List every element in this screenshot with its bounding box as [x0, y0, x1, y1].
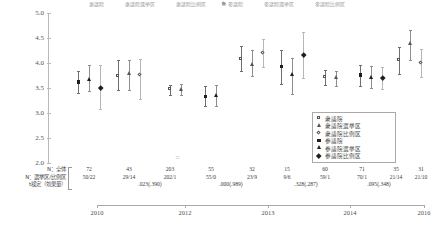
- footer-test-value: .095(.348): [367, 181, 390, 187]
- error-bar-cap: [420, 49, 423, 50]
- footer-total-value: 55: [208, 166, 214, 172]
- error-bar-cap: [302, 78, 305, 79]
- footer-split-value: 29/14: [123, 174, 136, 180]
- error-bar-cap: [88, 91, 91, 92]
- error-bar-cap: [128, 90, 131, 91]
- footer-split-value: 23/9: [247, 174, 257, 180]
- footer-total-value: 203: [166, 166, 174, 172]
- top-legend-label: 参議院選挙区: [264, 0, 294, 7]
- error-bar-cap: [128, 60, 131, 61]
- chart-root: ▫衆議院 △衆議院選挙区 ◇衆議院比例区 ▪参議院 ▴参議院選挙区 ◆参議院比例…: [0, 0, 434, 228]
- footer-split-value: 202/1: [164, 174, 177, 180]
- x-axis-line: [97, 205, 424, 206]
- stray-marker-icon: □: [176, 155, 179, 160]
- top-legend-item: ▫衆議院: [84, 0, 109, 7]
- data-point: [89, 13, 90, 163]
- error-bar-cap: [291, 94, 294, 95]
- series-marker: [369, 75, 373, 79]
- triangle-open-icon: [316, 123, 325, 130]
- error-bar-cap: [420, 77, 423, 78]
- error-bar-cap: [169, 85, 172, 86]
- data-point: [303, 13, 304, 163]
- error-bar-cap: [117, 90, 120, 91]
- footer-total-value: 15: [284, 166, 290, 172]
- x-axis-label: 2010: [91, 209, 104, 216]
- footer-total-value: 60: [322, 166, 328, 172]
- error-bar-cap: [324, 85, 327, 86]
- error-bar-cap: [240, 71, 243, 72]
- series-marker: [323, 75, 326, 78]
- error-bar-cap: [204, 86, 207, 87]
- top-legend-label: 参議院: [228, 0, 243, 7]
- error-bar-cap: [262, 67, 265, 68]
- footer-brace: [68, 167, 72, 190]
- data-point: [170, 13, 171, 163]
- data-point: [399, 13, 400, 163]
- x-tick: [185, 205, 186, 208]
- series-marker: [239, 57, 242, 60]
- data-point: [252, 13, 253, 163]
- error-bar-cap: [335, 86, 338, 87]
- data-point: [421, 13, 422, 163]
- data-point: [410, 13, 411, 163]
- x-axis-label: 2014: [344, 209, 357, 216]
- series-marker: [280, 65, 284, 69]
- y-tick: [47, 113, 51, 114]
- footer-split-value: 9/6: [283, 174, 290, 180]
- footer-total-value: 43: [126, 166, 132, 172]
- footer-split-value: 21/14: [390, 174, 403, 180]
- error-bar-cap: [291, 58, 294, 59]
- error-bar-cap: [180, 95, 183, 96]
- footer-test-value: .000(.989): [219, 181, 242, 187]
- y-tick: [47, 138, 51, 139]
- y-axis-label: 5.0: [35, 9, 44, 17]
- footer-label-test: t検定（効果量）: [4, 181, 66, 189]
- error-bar-cap: [240, 46, 243, 47]
- x-axis-label: 2016: [418, 209, 431, 216]
- top-legend-item: △衆議院選挙区: [120, 0, 160, 7]
- top-legend-item: ▪参議院: [223, 0, 248, 7]
- error-bar-cap: [370, 66, 373, 67]
- error-bar-cap: [169, 95, 172, 96]
- error-bar-cap: [409, 30, 412, 31]
- series-marker: [77, 80, 81, 84]
- error-bar-cap: [409, 60, 412, 61]
- top-legend-label: 参議院比例区: [315, 0, 345, 7]
- data-point: [129, 13, 130, 163]
- x-tick: [97, 205, 98, 208]
- error-bar-cap: [180, 84, 183, 85]
- y-axis-label: 2.5: [35, 134, 44, 142]
- error-bar-cap: [381, 67, 384, 68]
- legend-item-sangiin-hirei[interactable]: 参議院比例区: [316, 153, 392, 161]
- error-bar-cap: [251, 76, 254, 77]
- y-axis-label: 4.5: [35, 34, 44, 42]
- data-point: [140, 13, 141, 163]
- error-bar-cap: [324, 70, 327, 71]
- footer-total-value: 71: [359, 166, 365, 172]
- error-bar-cap: [359, 86, 362, 87]
- error-bar-cap: [381, 89, 384, 90]
- data-point: [100, 13, 101, 163]
- x-axis-label: 2012: [179, 209, 192, 216]
- error-bar: [140, 59, 141, 99]
- error-bar-cap: [302, 32, 305, 33]
- error-bar-cap: [215, 85, 218, 86]
- series-marker: [359, 73, 363, 77]
- y-tick: [47, 38, 51, 39]
- data-point: [216, 13, 217, 163]
- x-tick: [424, 205, 425, 208]
- x-axis: 20102012201320142016: [0, 205, 434, 225]
- series-marker: [116, 74, 119, 77]
- series-marker: [397, 58, 400, 61]
- y-axis-label: 4.0: [35, 59, 44, 67]
- x-tick: [350, 205, 351, 208]
- data-point: [241, 13, 242, 163]
- square-open-icon: [316, 115, 325, 122]
- series-marker: [334, 75, 338, 79]
- footer-split-value: 50/22: [83, 174, 96, 180]
- series-marker: [214, 93, 218, 97]
- footer-split-value: 70/1: [357, 174, 367, 180]
- error-bar-cap: [370, 88, 373, 89]
- footer-split-value: 55/0: [206, 174, 216, 180]
- error-bar-cap: [215, 106, 218, 107]
